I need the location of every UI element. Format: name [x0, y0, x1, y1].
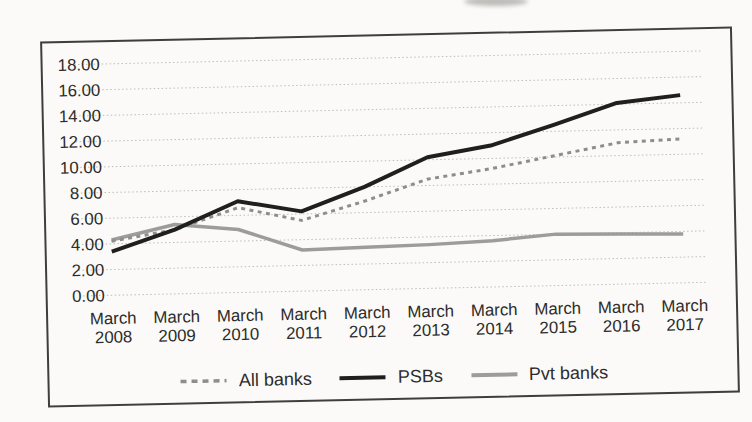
x-axis-tick-label-month: March [471, 300, 518, 320]
legend-label-all-banks: All banks [239, 370, 312, 390]
x-axis-tick-label-month: March [280, 304, 327, 324]
legend-line-sample [340, 377, 386, 378]
legend-item-psbs: PSBs [338, 367, 443, 387]
x-axis-tick-label-year: 2015 [539, 318, 577, 338]
x-axis-tick-label-month: March [661, 296, 708, 316]
x-axis-tick-label-year: 2010 [222, 325, 260, 345]
y-axis-tick-label: 16.00 [58, 81, 100, 101]
y-axis-tick-label: 12.00 [59, 132, 101, 152]
y-axis-tick-label: 10.00 [60, 158, 102, 178]
gridline [76, 128, 705, 142]
gridline [76, 154, 705, 168]
legend-line-sample [181, 381, 227, 382]
x-axis-tick-label-year: 2016 [603, 316, 641, 336]
y-axis-tick-label: 2.00 [71, 261, 104, 281]
y-axis-tick-label: 0.00 [72, 286, 105, 306]
x-axis-tick-label-year: 2017 [666, 315, 704, 335]
x-axis-tick-label-month: March [598, 297, 645, 317]
solid-black-line-swatch [338, 372, 388, 383]
figure-frame: 0.002.004.006.008.0010.0012.0014.0016.00… [40, 26, 740, 407]
scanned-page: 0.002.004.006.008.0010.0012.0014.0016.00… [0, 0, 752, 422]
x-axis-tick-label-year: 2011 [286, 323, 323, 343]
series-line-psbs [109, 95, 684, 251]
x-axis-tick-label-year: 2012 [349, 322, 387, 342]
legend-label-psbs: PSBs [398, 367, 443, 386]
gridline [79, 257, 708, 271]
solid-gray-line-swatch [469, 369, 519, 380]
x-axis-tick-label-year: 2013 [412, 320, 450, 340]
x-axis-tick-label-month: March [534, 299, 581, 319]
gridline [74, 51, 703, 65]
gridline [75, 77, 704, 91]
y-axis-tick-label: 18.00 [58, 55, 100, 75]
x-axis-tick-label-month: March [90, 308, 137, 328]
x-axis-tick-label-year: 2009 [158, 326, 196, 346]
gridline [77, 205, 706, 219]
x-axis-tick-label-year: 2014 [476, 319, 514, 339]
y-axis-tick-label: 8.00 [70, 184, 103, 204]
dashed-line-swatch [179, 376, 229, 387]
x-axis-tick-label-month: March [153, 307, 200, 327]
x-axis-tick-label-year: 2008 [95, 327, 133, 347]
x-axis-tick-label-month: March [407, 302, 454, 322]
scan-artifact [464, 0, 528, 6]
gridline [77, 179, 706, 193]
x-axis-tick-label-month: March [217, 306, 264, 326]
gridline [79, 282, 708, 296]
y-axis-tick-label: 6.00 [70, 209, 103, 229]
legend-item-all-banks: All banks [179, 370, 312, 391]
legend-label-pvt-banks: Pvt banks [529, 363, 608, 383]
legend-item-pvt-banks: Pvt banks [469, 363, 608, 384]
y-axis-tick-label: 14.00 [59, 106, 101, 126]
x-axis-tick-label-month: March [344, 303, 391, 323]
legend-line-sample [471, 374, 517, 375]
y-axis-tick-label: 4.00 [71, 235, 104, 255]
npa-ratio-line-chart: 0.002.004.006.008.0010.0012.0014.0016.00… [42, 29, 738, 406]
